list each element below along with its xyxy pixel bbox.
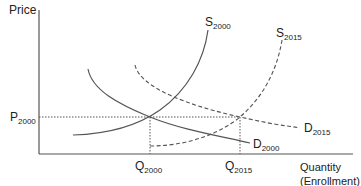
price-axis-label: Price (9, 4, 36, 16)
quantity-axis-line2: (Enrollment) (300, 174, 360, 186)
q2015-label: Q2015 (225, 160, 252, 175)
p2000-label: P2000 (10, 111, 36, 126)
quantity-axis-line1: Quantity (300, 160, 360, 174)
d2000-curve (88, 69, 250, 143)
s2015-label: S2015 (276, 27, 302, 42)
d2015-label: D2015 (304, 122, 330, 137)
supply-demand-diagram (0, 0, 361, 186)
s2015-curve (150, 40, 282, 146)
s2000-curve (73, 30, 208, 135)
d2000-label: D2000 (253, 138, 279, 153)
s2000-label: S2000 (205, 16, 231, 31)
q2000-label: Q2000 (135, 160, 162, 175)
d2015-curve (135, 65, 300, 128)
quantity-axis-label: Quantity (Enrollment) (300, 160, 360, 186)
